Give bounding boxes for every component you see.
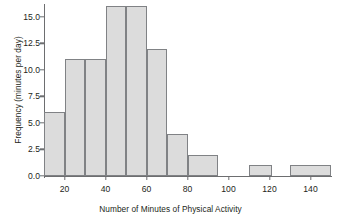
histogram-bar bbox=[188, 155, 219, 176]
histogram-figure: Frequency (minutes per day) 0.02.55.07.5… bbox=[0, 0, 341, 221]
y-tick-label: 2.5 bbox=[28, 144, 40, 154]
x-axis-label: Number of Minutes of Physical Activity bbox=[0, 204, 341, 214]
histogram-bar bbox=[147, 49, 168, 177]
y-tick-label: 12.5 bbox=[23, 38, 40, 48]
y-tick-mark bbox=[40, 42, 44, 43]
x-tick-mark bbox=[64, 176, 65, 180]
histogram-bar bbox=[85, 59, 106, 176]
histogram-bar bbox=[44, 112, 65, 176]
x-tick-mark bbox=[228, 176, 229, 180]
histogram-bar bbox=[65, 59, 86, 176]
x-tick-mark bbox=[146, 176, 147, 180]
x-tick-label: 60 bbox=[142, 184, 152, 194]
x-tick-mark bbox=[105, 176, 106, 180]
y-tick-label: 15.0 bbox=[23, 12, 40, 22]
histogram-bar bbox=[126, 6, 147, 176]
histogram-bar bbox=[249, 165, 272, 176]
y-tick-mark bbox=[40, 175, 44, 176]
x-tick-label: 20 bbox=[60, 184, 70, 194]
y-tick-mark bbox=[40, 122, 44, 123]
x-tick-label: 140 bbox=[303, 184, 317, 194]
y-tick-label: 10.0 bbox=[23, 65, 40, 75]
y-tick-label: 5.0 bbox=[28, 118, 40, 128]
x-tick-mark bbox=[310, 176, 311, 180]
y-tick-label: 0.0 bbox=[28, 171, 40, 181]
y-tick-label: 7.5 bbox=[28, 91, 40, 101]
y-tick-mark bbox=[40, 69, 44, 70]
y-tick-mark bbox=[40, 96, 44, 97]
x-tick-label: 40 bbox=[101, 184, 111, 194]
histogram-bar bbox=[290, 165, 331, 176]
y-tick-mark bbox=[40, 16, 44, 17]
x-tick-label: 80 bbox=[183, 184, 193, 194]
y-tick-mark bbox=[40, 149, 44, 150]
histogram-bar bbox=[167, 134, 188, 177]
x-tick-mark bbox=[187, 176, 188, 180]
x-tick-mark bbox=[269, 176, 270, 180]
plot-area: 0.02.55.07.510.012.515.02040608010012014… bbox=[44, 6, 331, 176]
x-tick-label: 120 bbox=[262, 184, 276, 194]
x-tick-label: 100 bbox=[221, 184, 235, 194]
y-axis-label: Frequency (minutes per day) bbox=[13, 10, 23, 170]
histogram-bar bbox=[106, 6, 127, 176]
